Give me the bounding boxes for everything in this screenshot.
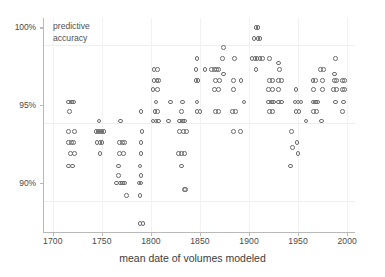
data-point — [100, 140, 105, 145]
data-point — [299, 100, 304, 105]
y-tick-mark — [40, 183, 43, 184]
data-point — [156, 119, 161, 124]
data-point — [289, 129, 294, 134]
data-point — [256, 25, 261, 30]
data-point — [216, 67, 221, 72]
data-point — [198, 109, 203, 114]
data-point — [183, 187, 188, 192]
data-point — [122, 181, 127, 186]
data-point — [341, 100, 346, 105]
data-point — [116, 164, 121, 169]
data-point — [122, 140, 127, 145]
data-point — [155, 87, 160, 92]
data-point — [195, 100, 200, 105]
data-point — [221, 72, 226, 77]
data-point — [296, 151, 301, 156]
data-point — [194, 67, 199, 72]
data-point — [182, 151, 187, 156]
data-point — [151, 87, 156, 92]
x-tick-label: 1700 — [33, 236, 73, 246]
data-point — [138, 193, 143, 198]
gridline-vertical — [53, 18, 54, 233]
data-point — [216, 109, 221, 114]
x-axis-title: mean date of volumes modeled — [0, 252, 385, 264]
data-point — [340, 109, 345, 114]
data-point — [72, 129, 77, 134]
x-tick-mark — [151, 233, 152, 236]
data-point — [254, 67, 259, 72]
data-point — [233, 109, 238, 114]
data-point — [321, 67, 326, 72]
chart-root: 90%95%100% 1700175018001850190019502000 … — [0, 0, 385, 277]
data-point — [70, 164, 75, 169]
data-point — [66, 129, 71, 134]
data-point — [239, 78, 244, 83]
data-point — [232, 56, 237, 61]
x-tick-label: 1950 — [278, 236, 318, 246]
x-tick-mark — [347, 233, 348, 236]
x-tick-label: 1750 — [82, 236, 122, 246]
gridline-vertical — [347, 18, 348, 233]
y-axis-line — [43, 18, 44, 233]
data-point — [179, 109, 184, 114]
data-point — [276, 87, 281, 92]
data-point — [334, 87, 339, 92]
data-point — [333, 100, 338, 105]
data-point — [71, 100, 76, 105]
data-point — [140, 129, 145, 134]
gridline-vertical — [200, 18, 201, 233]
data-point — [216, 87, 221, 92]
data-point — [180, 100, 185, 105]
x-tick-mark — [249, 233, 250, 236]
data-point — [67, 109, 72, 114]
data-point — [203, 67, 208, 72]
data-point — [270, 78, 275, 83]
data-point — [271, 100, 276, 105]
gridline-vertical — [102, 18, 103, 233]
gridline-vertical — [249, 18, 250, 233]
data-point — [276, 61, 281, 66]
data-point — [102, 129, 107, 134]
data-point — [277, 67, 282, 72]
data-point — [155, 109, 160, 114]
data-point — [139, 140, 144, 145]
data-point — [221, 45, 226, 50]
x-tick-mark — [53, 233, 54, 236]
data-point — [333, 56, 338, 61]
data-point — [342, 78, 347, 83]
data-point — [138, 164, 143, 169]
data-point — [334, 78, 339, 83]
data-point — [311, 87, 316, 92]
data-point — [258, 36, 263, 41]
data-point — [313, 78, 318, 83]
data-point — [315, 100, 320, 105]
data-point — [116, 173, 121, 178]
data-point — [141, 221, 146, 226]
data-point — [297, 109, 302, 114]
data-point — [196, 78, 201, 83]
gridline-vertical — [151, 18, 152, 233]
x-tick-mark — [200, 233, 201, 236]
x-tick-label: 2000 — [327, 236, 367, 246]
data-point — [267, 56, 272, 61]
data-point — [288, 164, 293, 169]
x-tick-label: 1900 — [229, 236, 269, 246]
y-tick-label: 100% — [2, 22, 36, 32]
data-point — [156, 78, 161, 83]
data-point — [290, 145, 295, 150]
data-point — [270, 87, 275, 92]
data-point — [231, 78, 236, 83]
data-point — [179, 164, 184, 169]
data-point — [342, 87, 347, 92]
data-point — [217, 78, 222, 83]
data-point — [238, 129, 243, 134]
x-tick-label: 1800 — [131, 236, 171, 246]
annotation-line-1: predictive — [53, 21, 90, 33]
data-point — [260, 56, 265, 61]
data-point — [124, 193, 129, 198]
data-point — [242, 100, 247, 105]
data-point — [231, 129, 236, 134]
gridline-vertical — [298, 18, 299, 233]
data-point — [139, 109, 144, 114]
data-point — [154, 100, 159, 105]
